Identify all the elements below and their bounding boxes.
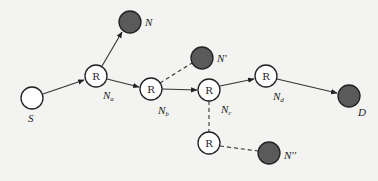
router-label-na: R <box>92 71 100 82</box>
node-s <box>21 87 43 109</box>
label-n-double-prime: N'' <box>283 149 297 161</box>
edge-nb-n1 <box>160 63 192 83</box>
edge-r2-n2 <box>220 146 258 151</box>
edge-nc-nd <box>220 79 254 86</box>
edges <box>43 32 337 151</box>
router-label-nb: R <box>147 84 155 95</box>
label-n: N <box>144 16 153 28</box>
edge-nb-nc <box>162 89 197 90</box>
router-label-nd: R <box>262 71 270 82</box>
node-d <box>338 85 360 107</box>
label-n-prime: N' <box>216 52 227 64</box>
router-label-r2: R <box>205 138 213 149</box>
router-label-nc: R <box>205 85 213 96</box>
label-s: S <box>28 112 34 124</box>
label-nc: Nc <box>220 103 232 117</box>
edge-na-n <box>102 32 122 66</box>
node-n-prime <box>191 47 213 69</box>
label-nb: Nb <box>157 104 169 118</box>
node-n <box>119 11 141 33</box>
edge-s-na <box>43 80 84 94</box>
edge-na-nb <box>107 79 139 87</box>
label-nd: Nd <box>272 90 284 104</box>
label-na: Na <box>102 89 114 103</box>
node-n-double-prime <box>258 142 280 164</box>
label-d: D <box>357 106 366 118</box>
edge-nd-d <box>277 79 337 93</box>
nodes <box>21 11 360 164</box>
routing-diagram: R R R R R S N N' N'' D Na Nb Nc Nd <box>0 0 378 181</box>
